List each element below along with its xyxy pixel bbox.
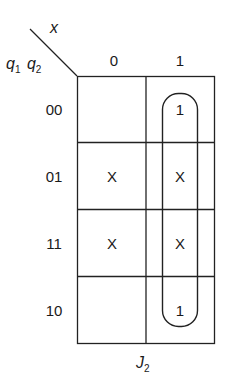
cell-11-0: X <box>102 236 122 251</box>
cell-01-1: X <box>170 169 190 184</box>
col-header-1: 1 <box>170 53 190 68</box>
cell-00-1: 1 <box>170 102 190 117</box>
cell-11-1: X <box>170 236 190 251</box>
col-header-0: 0 <box>104 53 124 68</box>
row-header-10: 10 <box>42 303 66 318</box>
row-header-01: 01 <box>42 169 66 184</box>
cell-10-1: 1 <box>170 303 190 318</box>
cell-01-0: X <box>102 169 122 184</box>
row-header-00: 00 <box>42 102 66 117</box>
row-variable-label: q1 q2 <box>6 55 41 75</box>
col-variable-label: x <box>50 20 58 36</box>
map-title: J2 <box>136 354 150 374</box>
row-header-11: 11 <box>42 236 66 251</box>
